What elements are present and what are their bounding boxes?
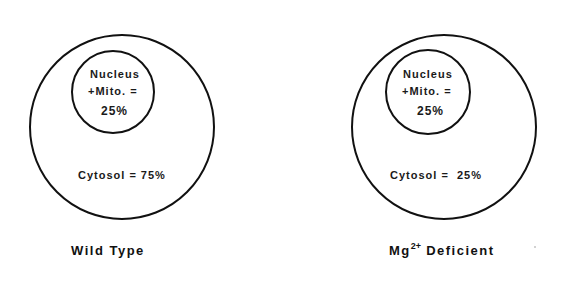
wild-type-cell-circle <box>30 35 214 219</box>
wild-type-title: Wild Type <box>71 243 145 258</box>
stray-dot <box>534 246 536 248</box>
wild-type-inner-line2: +Mito. = <box>88 85 138 97</box>
mg-deficient-title-superscript: 2+ <box>411 241 421 251</box>
mg-deficient-cell-circle <box>352 35 536 219</box>
mg-deficient-title-rest: Deficient <box>421 243 495 258</box>
mg-deficient-title-main: Mg <box>389 243 411 258</box>
mg-deficient-cytosol-label: Cytosol = 25% <box>390 169 482 181</box>
mg-deficient-inner-value: 25% <box>417 104 444 118</box>
mg-deficient-title: Mg2+ Deficient <box>389 241 495 258</box>
wild-type-inner-value: 25% <box>101 104 128 118</box>
wild-type-cytosol-label: Cytosol = 75% <box>78 169 166 181</box>
wild-type-inner-line1: Nucleus <box>90 68 140 80</box>
mg-deficient-inner-line2: +Mito. = <box>402 85 452 97</box>
mg-deficient-inner-line1: Nucleus <box>403 68 453 80</box>
